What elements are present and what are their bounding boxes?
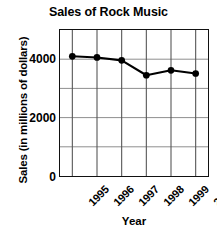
data-point-1998 bbox=[143, 72, 150, 79]
data-point-1995 bbox=[69, 53, 76, 60]
x-tick-label-2000: 2000 bbox=[210, 183, 217, 208]
data-point-1999 bbox=[168, 67, 175, 74]
x-axis-tick-labels: 199519961997199819992000 bbox=[59, 177, 209, 217]
vertical-gridlines bbox=[72, 30, 195, 176]
line-chart-figure: Sales of Rock Music Sales (in millions o… bbox=[0, 0, 217, 238]
x-axis-title: Year bbox=[58, 215, 210, 227]
data-point-2000 bbox=[192, 70, 199, 77]
x-tick-label-1997: 1997 bbox=[135, 183, 160, 208]
data-point-1997 bbox=[118, 57, 125, 64]
y-tick-label-4000: 4000 bbox=[16, 53, 56, 65]
x-tick-label-1998: 1998 bbox=[160, 183, 185, 208]
y-axis-tick-labels: 020004000 bbox=[13, 29, 56, 177]
x-tick-label-1999: 1999 bbox=[185, 183, 210, 208]
data-point-1996 bbox=[94, 54, 101, 61]
chart-title: Sales of Rock Music bbox=[0, 5, 217, 19]
plot-area bbox=[59, 29, 209, 177]
x-tick-label-1996: 1996 bbox=[110, 183, 135, 208]
plot-svg bbox=[60, 30, 208, 176]
y-tick-label-2000: 2000 bbox=[16, 112, 56, 124]
y-tick-label-0: 0 bbox=[16, 171, 56, 183]
x-tick-label-1995: 1995 bbox=[85, 183, 110, 208]
